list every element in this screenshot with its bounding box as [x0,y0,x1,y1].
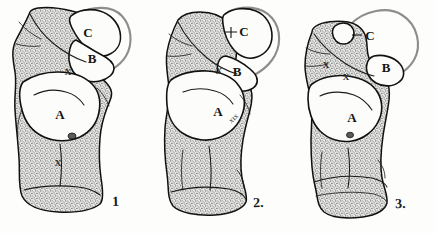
specimen-panel-1: C B A X X [0,0,146,233]
x-marker-upper: X [216,66,223,76]
panel-number-3: 3. [395,196,406,212]
foramen-3 [347,132,354,138]
specimen-panel-3: C B A X X [290,0,436,233]
foramen-1 [68,133,76,139]
facet-label-a: A [55,107,65,122]
panel-number-1: 1 [112,194,120,210]
facet-label-b: B [88,51,97,66]
facet-label-a: A [347,110,357,125]
facet-label-c: C [239,24,248,39]
x-marker-left: X [323,60,330,70]
x-marker-upper: X [65,67,72,77]
figure-root: C B A X X [0,0,436,233]
facet-label-c: C [83,25,92,40]
facet-c-3 [332,23,354,44]
facet-a-2 [167,71,245,140]
facet-label-b: B [233,64,242,79]
facet-label-a: A [213,104,223,119]
facet-label-b: B [382,60,391,75]
x-marker-lower: X [55,158,62,168]
specimen-panel-2: C B A X XIX [145,0,291,233]
panel-number-2: 2. [253,195,264,211]
x-marker-upper: X [343,72,350,82]
facet-label-c: C [365,28,374,43]
